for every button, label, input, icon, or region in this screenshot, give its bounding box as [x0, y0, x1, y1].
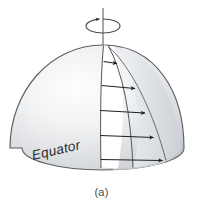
figure-caption: (a)	[0, 186, 203, 198]
figure-container: Equator (a)	[0, 0, 203, 214]
hemisphere-diagram: Equator	[0, 0, 203, 214]
